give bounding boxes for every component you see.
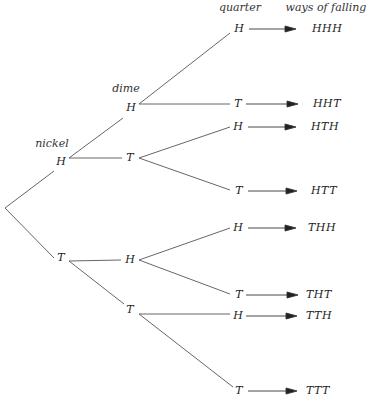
- edge-dime-ht-quarter-t: [139, 158, 230, 190]
- node-quarter-t-2: T: [235, 185, 242, 197]
- arrow-icon: [246, 292, 298, 298]
- outcome-hth: HTH: [311, 121, 339, 133]
- node-quarter-t-3: T: [235, 289, 242, 301]
- outcome-thh: THH: [308, 222, 336, 234]
- edge-dime-th-quarter-t: [139, 260, 230, 294]
- outcome-hht: HHT: [313, 98, 341, 110]
- outcome-hhh: HHH: [312, 23, 342, 35]
- edge-dime-ht-quarter-h: [139, 127, 230, 158]
- node-quarter-h-2: H: [233, 121, 243, 133]
- outcome-htt: HTT: [311, 185, 337, 197]
- edge-dime-hh-quarter-h: [139, 33, 230, 104]
- edge-root-nickel-t: [5, 208, 54, 258]
- header-dime: dime: [112, 83, 140, 95]
- node-quarter-t-1: T: [234, 98, 241, 110]
- header-ways-of-falling: ways of falling: [286, 2, 366, 14]
- arrow-icon: [246, 313, 297, 319]
- arrow-icon: [246, 101, 298, 107]
- arrow-icon: [248, 388, 297, 394]
- edge-dime-tt-quarter-t: [139, 314, 233, 387]
- outcome-tth: TTH: [306, 310, 332, 322]
- edge-root-nickel-h: [5, 171, 54, 208]
- node-nickel-t: T: [57, 252, 64, 264]
- node-dime-h-1: H: [126, 102, 136, 114]
- edge-dime-th-quarter-h: [139, 228, 230, 260]
- node-quarter-h-1: H: [234, 23, 244, 35]
- outcome-tht: THT: [306, 289, 332, 301]
- edge-nickel-t-dime-t: [69, 261, 124, 304]
- node-quarter-h-4: H: [233, 310, 243, 322]
- node-nickel-h: H: [56, 156, 66, 168]
- outcome-ttt: TTT: [306, 385, 330, 397]
- header-quarter: quarter: [219, 2, 261, 14]
- arrow-icon: [248, 124, 296, 130]
- edge-nickel-t-dime-h: [69, 260, 121, 261]
- arrow-icon: [249, 26, 296, 32]
- node-dime-h-2: H: [125, 254, 135, 266]
- header-nickel: nickel: [35, 138, 68, 150]
- node-quarter-t-4: T: [235, 385, 242, 397]
- node-dime-t-2: T: [126, 304, 133, 316]
- edge-nickel-h-dime-h: [69, 118, 123, 158]
- node-dime-t-1: T: [126, 152, 133, 164]
- node-quarter-h-3: H: [233, 222, 243, 234]
- arrow-icon: [248, 188, 297, 194]
- arrow-icon: [248, 225, 296, 231]
